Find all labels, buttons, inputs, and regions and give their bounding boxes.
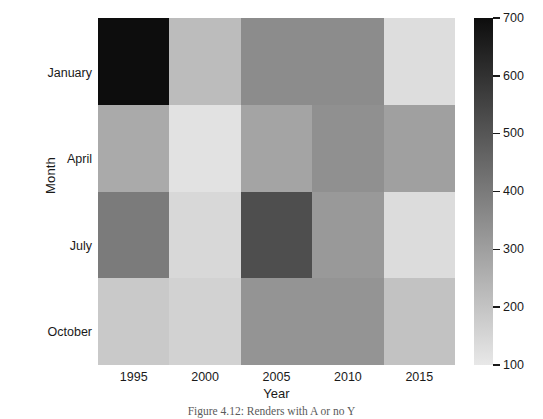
y-axis-tick-labels: January April July October: [0, 0, 92, 419]
colorbar-tick-label: 100: [503, 359, 524, 372]
colorbar-tick-label: 200: [503, 301, 524, 314]
colorbar-tick-mark: [493, 133, 500, 135]
x-tick-2000: 2000: [169, 368, 240, 388]
y-tick-january: January: [6, 66, 92, 80]
y-tick-april: April: [6, 152, 92, 166]
colorbar-tick-mark: [493, 191, 500, 193]
heatmap-cell: [98, 18, 169, 105]
colorbar-tick-label: 700: [503, 12, 524, 25]
heatmap-figure: Month January April July October 1995 20…: [0, 0, 543, 419]
heatmap-cell: [98, 278, 169, 365]
heatmap-cell: [312, 278, 383, 365]
heatmap-cell: [241, 105, 312, 192]
colorbar-tick-labels: 700600500400300200100: [493, 18, 541, 365]
heatmap-cell: [169, 192, 240, 279]
y-tick-july: July: [6, 239, 92, 253]
colorbar-tick-mark: [493, 364, 500, 366]
colorbar-tick-label: 600: [503, 70, 524, 83]
colorbar-tick-mark: [493, 75, 500, 77]
heatmap-cell: [169, 18, 240, 105]
heatmap-cell: [241, 192, 312, 279]
colorbar-tick-mark: [493, 17, 500, 19]
y-tick-october: October: [6, 325, 92, 339]
heatmap-cell: [241, 278, 312, 365]
colorbar: [474, 18, 493, 365]
colorbar-tick-mark: [493, 249, 500, 251]
heatmap-cell: [384, 192, 455, 279]
heatmap-cell: [312, 192, 383, 279]
colorbar-tick-label: 400: [503, 185, 524, 198]
heatmap-plot-area: [98, 18, 455, 365]
heatmap-cell: [384, 278, 455, 365]
heatmap-cell: [312, 105, 383, 192]
x-tick-2015: 2015: [384, 368, 455, 388]
heatmap-cell: [241, 18, 312, 105]
x-axis-tick-labels: 1995 2000 2005 2010 2015: [98, 368, 455, 388]
figure-caption: Figure 4.12: Renders with A or no Y: [0, 405, 543, 419]
heatmap-cell: [169, 278, 240, 365]
heatmap-cell: [169, 105, 240, 192]
heatmap-cell: [98, 192, 169, 279]
colorbar-gradient: [474, 18, 493, 365]
colorbar-tick-label: 300: [503, 243, 524, 256]
heatmap-cell: [98, 105, 169, 192]
x-axis-title: Year: [98, 386, 455, 401]
heatmap-cell: [384, 105, 455, 192]
colorbar-tick-label: 500: [503, 127, 524, 140]
x-tick-1995: 1995: [98, 368, 169, 388]
colorbar-tick-mark: [493, 306, 500, 308]
x-tick-2010: 2010: [312, 368, 383, 388]
heatmap-cell: [384, 18, 455, 105]
x-tick-2005: 2005: [241, 368, 312, 388]
heatmap-cell: [312, 18, 383, 105]
